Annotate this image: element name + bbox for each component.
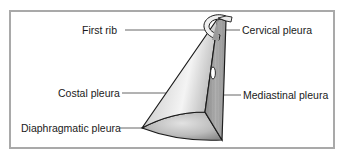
hilum-opening	[211, 67, 216, 79]
label-first-rib: First rib	[82, 24, 117, 36]
label-mediastinal-pleura: Mediastinal pleura	[243, 89, 328, 101]
label-cervical-pleura: Cervical pleura	[242, 24, 312, 36]
label-costal-pleura: Costal pleura	[58, 87, 120, 99]
label-diaphragmatic-pleura: Diaphragmatic pleura	[21, 122, 121, 134]
